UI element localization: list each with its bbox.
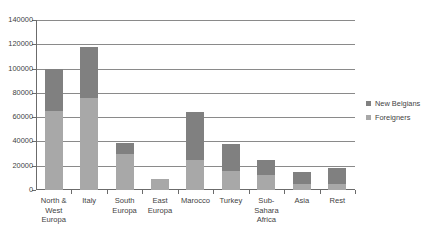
x-tick-mark: [142, 190, 143, 194]
x-tick-label: EastEuropa: [142, 196, 177, 215]
x-tick-mark: [107, 190, 108, 194]
bar-segment-foreigners[interactable]: [186, 160, 204, 190]
bar-stack[interactable]: [116, 143, 134, 190]
x-tick-mark: [178, 190, 179, 194]
bar-slot: [71, 20, 106, 190]
x-tick-label: Sub-SaharaAfrica: [249, 196, 284, 225]
x-tick-label-line: Marocco: [178, 196, 213, 206]
legend-swatch-icon: [366, 115, 371, 120]
bar-stack[interactable]: [293, 172, 311, 190]
bar-stack[interactable]: [45, 69, 63, 190]
x-tick-label-line: West: [36, 206, 71, 216]
x-tick-label-line: Asia: [284, 196, 319, 206]
y-tick-label: 0: [0, 186, 33, 193]
bar-slot: [284, 20, 319, 190]
bar-segment-foreigners[interactable]: [151, 179, 169, 190]
bar-slot: [107, 20, 142, 190]
bar-stack[interactable]: [257, 160, 275, 190]
x-tick-label: North &WestEuropa: [36, 196, 71, 225]
x-tick-label-line: East: [142, 196, 177, 206]
legend-label: Foreigners: [375, 114, 410, 121]
bar-slot: [213, 20, 248, 190]
x-tick-mark: [213, 190, 214, 194]
bar-segment-new-belgians[interactable]: [328, 168, 346, 184]
bar-stack[interactable]: [186, 112, 204, 190]
x-tick-label: Asia: [284, 196, 319, 206]
bar-segment-new-belgians[interactable]: [293, 172, 311, 184]
bar-stack[interactable]: [80, 47, 98, 190]
y-tick-label: 80000: [0, 89, 33, 96]
x-tick-label: Italy: [71, 196, 106, 206]
bars-layer: [36, 20, 355, 190]
legend-swatch-icon: [366, 101, 371, 106]
x-tick-mark: [71, 190, 72, 194]
bar-slot: [142, 20, 177, 190]
bar-segment-foreigners[interactable]: [328, 184, 346, 190]
x-tick-label: Marocco: [178, 196, 213, 206]
bar-slot: [249, 20, 284, 190]
bar-segment-foreigners[interactable]: [116, 154, 134, 190]
x-tick-label: Rest: [320, 196, 355, 206]
x-tick-label-line: Europa: [36, 215, 71, 225]
bar-segment-new-belgians[interactable]: [222, 144, 240, 171]
bar-segment-foreigners[interactable]: [293, 184, 311, 190]
y-tick-label: 100000: [0, 65, 33, 72]
bar-segment-new-belgians[interactable]: [80, 47, 98, 98]
legend-item[interactable]: Foreigners: [366, 112, 428, 123]
bar-slot: [36, 20, 71, 190]
bar-segment-foreigners[interactable]: [222, 171, 240, 190]
x-tick-label: Turkey: [213, 196, 248, 206]
bar-segment-new-belgians[interactable]: [116, 143, 134, 154]
chart-legend: New BelgiansForeigners: [366, 98, 428, 126]
x-tick-mark: [355, 190, 356, 194]
x-tick-label-line: Europa: [142, 206, 177, 216]
bar-slot: [320, 20, 355, 190]
bar-stack[interactable]: [328, 168, 346, 190]
bar-slot: [178, 20, 213, 190]
x-tick-label-line: North &: [36, 196, 71, 206]
bar-stack[interactable]: [151, 179, 169, 190]
x-tick-mark: [320, 190, 321, 194]
x-tick-label-line: South: [107, 196, 142, 206]
y-tick-label: 20000: [0, 162, 33, 169]
bar-segment-new-belgians[interactable]: [257, 160, 275, 176]
x-tick-label-line: Sahara: [249, 206, 284, 216]
y-tick-label: 40000: [0, 137, 33, 144]
x-tick-label-line: Italy: [71, 196, 106, 206]
y-tick-label: 120000: [0, 40, 33, 47]
stacked-bar-chart: 020000400006000080000100000120000140000 …: [0, 0, 428, 245]
legend-label: New Belgians: [375, 100, 420, 107]
x-tick-label-line: Europa: [107, 206, 142, 216]
bar-segment-new-belgians[interactable]: [45, 69, 63, 112]
x-tick-label-line: Turkey: [213, 196, 248, 206]
x-tick-label-line: Sub-: [249, 196, 284, 206]
bar-stack[interactable]: [222, 144, 240, 190]
bar-segment-new-belgians[interactable]: [186, 112, 204, 159]
y-tick-label: 60000: [0, 113, 33, 120]
x-tick-label-line: Rest: [320, 196, 355, 206]
bar-segment-foreigners[interactable]: [80, 98, 98, 190]
bar-segment-foreigners[interactable]: [45, 111, 63, 190]
y-tick-label: 140000: [0, 16, 33, 23]
x-tick-label: SouthEuropa: [107, 196, 142, 215]
bar-segment-foreigners[interactable]: [257, 175, 275, 190]
x-tick-mark: [249, 190, 250, 194]
legend-item[interactable]: New Belgians: [366, 98, 428, 109]
x-tick-mark: [284, 190, 285, 194]
x-tick-label-line: Africa: [249, 215, 284, 225]
